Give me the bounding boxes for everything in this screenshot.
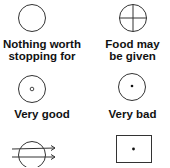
legend-label-food-may-be-given: Food may be given (90, 38, 170, 62)
circle-with-arrows-icon (12, 142, 55, 168)
legend-label-very-good: Very good (0, 108, 94, 120)
circle-with-dot-icon (119, 74, 146, 101)
circle-with-small-ring-icon (19, 76, 46, 103)
label-line: Nothing worth (0, 38, 94, 50)
empty-circle-icon (0, 0, 170, 167)
label-line: Very good (0, 108, 94, 120)
label-line: Food may (90, 38, 170, 50)
legend-label-nothing-worth-stopping: Nothing worth stopping for (0, 38, 94, 62)
label-line: stopping for (0, 50, 94, 62)
rectangle-with-dot-icon (117, 136, 152, 163)
empty-circle-icon (19, 5, 46, 32)
label-line: be given (90, 50, 170, 62)
legend-label-very-bad: Very bad (90, 108, 170, 120)
label-line: Very bad (90, 108, 170, 120)
circle-with-cross-icon (120, 5, 147, 32)
